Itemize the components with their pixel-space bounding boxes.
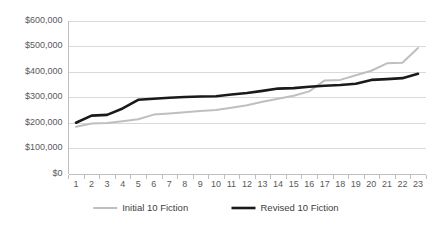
y-axis-tick-label: $500,000 — [25, 40, 63, 50]
gridlines — [69, 22, 426, 149]
legend-label-initial: Initial 10 Fiction — [122, 202, 188, 213]
y-axis-labels: $600,000$500,000$400,000$300,000$200,000… — [25, 15, 63, 178]
y-axis-tick-label: $400,000 — [25, 66, 63, 76]
x-axis-tick-label: 8 — [182, 179, 187, 189]
y-axis-tick-label: $0 — [52, 168, 62, 178]
y-axis-tick-label: $100,000 — [25, 142, 63, 152]
x-axis-tick-label: 2 — [89, 179, 94, 189]
x-axis-tick-label: 12 — [242, 179, 252, 189]
line-chart: $600,000$500,000$400,000$300,000$200,000… — [0, 0, 441, 228]
x-axis-tick-label: 22 — [397, 179, 407, 189]
legend-label-revised: Revised 10 Fiction — [261, 202, 339, 213]
x-axis-tick-label: 11 — [227, 179, 236, 189]
y-axis-tick-label: $300,000 — [25, 91, 63, 101]
x-axis-tick-label: 6 — [151, 179, 156, 189]
x-axis-tick-label: 14 — [273, 179, 283, 189]
chart-canvas: $600,000$500,000$400,000$300,000$200,000… — [0, 0, 441, 228]
x-axis-tick-label: 9 — [198, 179, 203, 189]
x-axis-tick-label: 1 — [73, 179, 78, 189]
x-axis-tick-label: 5 — [136, 179, 141, 189]
x-axis-tick-label: 18 — [335, 179, 345, 189]
x-axis-tick-label: 7 — [167, 179, 172, 189]
x-axis-tick-label: 13 — [258, 179, 268, 189]
x-axis-tick-label: 15 — [289, 179, 299, 189]
chart-legend: Initial 10 FictionRevised 10 Fiction — [93, 202, 338, 213]
x-axis-labels: 1234567891011121314151617181920212223 — [73, 179, 423, 189]
x-axis-tick-label: 16 — [304, 179, 314, 189]
y-axis-tick-label: $600,000 — [25, 15, 63, 25]
x-axis-tick-label: 4 — [120, 179, 125, 189]
x-axis-tick-label: 3 — [105, 179, 110, 189]
series-line-initial — [76, 48, 418, 127]
x-axis-tick-label: 17 — [320, 179, 330, 189]
x-axis-tick-label: 19 — [351, 179, 361, 189]
x-axis-tick-label: 20 — [366, 179, 376, 189]
x-axis-tick-label: 10 — [211, 179, 221, 189]
x-axis-tick-label: 23 — [413, 179, 423, 189]
data-series — [76, 48, 418, 127]
y-axis-tick-label: $200,000 — [25, 117, 63, 127]
x-axis-tick-label: 21 — [382, 179, 392, 189]
x-axis-ticks — [69, 175, 427, 179]
series-line-revised — [76, 74, 418, 123]
